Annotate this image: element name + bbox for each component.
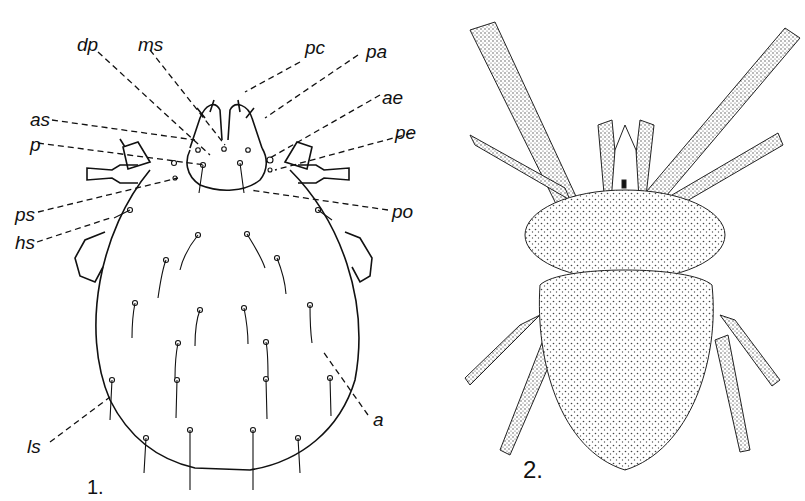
label-a: a	[373, 410, 384, 429]
label-ms: ms	[138, 35, 163, 54]
label-ps: ps	[15, 205, 35, 224]
figure1-drawing	[0, 0, 805, 501]
label-hs: hs	[15, 233, 35, 252]
label-pe: pe	[395, 123, 416, 142]
label-ae: ae	[382, 88, 403, 107]
label-as: as	[30, 110, 50, 129]
label-ls: ls	[27, 437, 41, 456]
label-po: po	[392, 202, 413, 221]
label-pc: pc	[305, 38, 325, 57]
label-dp: dp	[77, 35, 98, 54]
label-p: p	[30, 135, 41, 154]
figure2-number: 2.	[523, 458, 543, 482]
label-pa: pa	[366, 42, 387, 61]
figure-plate: dp ms pc pa ae as p pe ps hs po ls a 1. …	[0, 0, 805, 501]
figure1-number: 1.	[87, 477, 104, 497]
